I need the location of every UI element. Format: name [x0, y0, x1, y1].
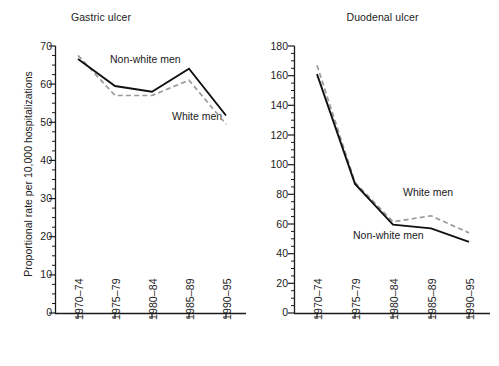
chart-panel-gastric-ulcer: Gastric ulcer Proportional rate per 10,0…: [0, 0, 250, 366]
series-line-non-white-men: [317, 74, 469, 242]
series-line-non-white-men: [78, 59, 226, 115]
x-major-ticks: [78, 314, 226, 320]
figure-container: Gastric ulcer Proportional rate per 10,0…: [0, 0, 499, 366]
axis-lines: [56, 46, 247, 314]
chart-panel-duodenal-ulcer: Duodenal ulcer 180 160 140 120 100 80 60…: [250, 0, 499, 366]
series-line-white-men: [78, 55, 226, 124]
series-line-white-men: [317, 65, 469, 233]
axis-lines: [295, 46, 491, 314]
plot-area-gastric-ulcer: [0, 0, 250, 366]
x-major-ticks: [317, 314, 469, 320]
plot-area-duodenal-ulcer: [250, 0, 499, 366]
